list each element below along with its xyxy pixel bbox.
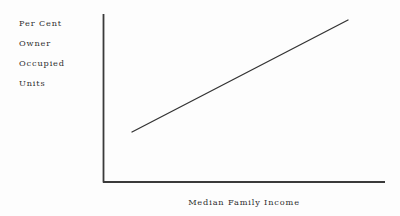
y-axis-label-line-1: Per Cent xyxy=(19,13,97,33)
trend-line xyxy=(132,20,348,132)
y-axis-label-line-3: Occupied xyxy=(19,53,97,73)
y-axis-label-line-4: Units xyxy=(19,73,97,93)
y-axis-label-line-2: Owner xyxy=(19,33,97,53)
y-axis-label: Per Cent Owner Occupied Units xyxy=(19,13,97,93)
chart-figure: Per Cent Owner Occupied Units Median Fam… xyxy=(0,0,400,216)
x-axis-label: Median Family Income xyxy=(103,197,385,207)
